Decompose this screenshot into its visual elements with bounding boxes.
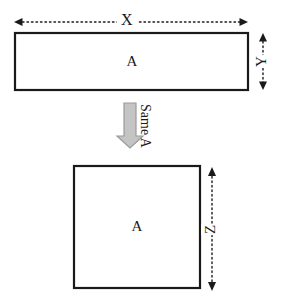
y-dimension-arrowhead-bottom xyxy=(259,82,267,91)
diagram-canvas: X Y A Same A A Z xyxy=(0,0,282,304)
top-rectangle-area-label: A xyxy=(0,54,282,69)
same-area-caption: Same A xyxy=(138,104,152,148)
x-dimension-arrowhead-left xyxy=(14,18,23,26)
x-dimension-arrowhead-right xyxy=(240,18,249,26)
y-dimension-arrowhead-top xyxy=(259,33,267,42)
bottom-square-area-label: A xyxy=(74,219,200,234)
z-dimension-arrowhead-top xyxy=(208,167,216,176)
diagram-vector-layer xyxy=(0,0,282,304)
z-dimension-arrowhead-bottom xyxy=(208,282,216,291)
top-area-letter: A xyxy=(127,53,138,69)
x-dimension-label: X xyxy=(117,12,137,28)
z-dimension-label: Z xyxy=(201,224,220,235)
